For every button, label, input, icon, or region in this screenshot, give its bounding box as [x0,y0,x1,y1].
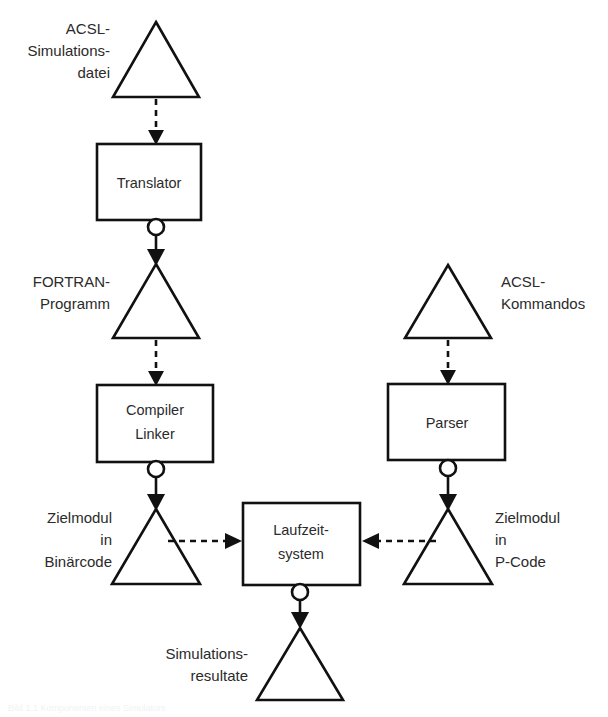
label-fortran-program: FORTRAN- Programm [33,273,110,312]
label-line: ACSL- [501,273,545,290]
label-simulation-results: Simulations- resultate [165,645,248,684]
cut-off-caption: Bild 1.1 Komponenten eines Simulators [8,703,298,715]
label-line: datei [77,64,110,81]
process-compiler-linker: Compiler Linker [97,385,213,462]
label-line: FORTRAN- [33,273,110,290]
label-line: Kommandos [501,295,585,312]
data-store-acsl-commands [405,265,491,338]
arrow-head-icon [439,494,457,511]
label-line: Simulations- [165,645,248,662]
data-store-fortran-program [113,264,199,338]
connector-circle-icon [148,219,164,235]
data-store-target-module-pcode [404,509,492,584]
triangle-shape [112,509,200,584]
data-store-acsl-simulation-file [113,22,199,97]
label-line: P-Code [495,553,546,570]
data-store-target-module-binary [112,509,200,584]
process-runtime-system-label-line1: Laufzeit- [273,522,329,538]
process-runtime-system: Laufzeit- system [243,503,360,585]
label-acsl-commands: ACSL- Kommandos [501,273,585,312]
label-line: Binärcode [44,553,112,570]
process-translator: Translator [97,144,201,220]
triangle-shape [405,265,491,338]
flow-commands-to-parser [440,340,456,385]
label-line: in [495,531,507,548]
flow-fortran-to-compiler [148,340,164,386]
acsl-toolchain-diagram: Translator Compiler Linker Parser Laufze… [0,0,608,717]
diagram-root: Translator Compiler Linker Parser Laufze… [0,0,608,717]
arrow-head-icon [147,494,165,511]
arrow-head-icon [147,249,165,266]
arrow-head-icon [291,612,309,629]
flow-compiler-to-binary [147,461,165,511]
label-line: in [100,531,112,548]
label-target-module-binary: Zielmodul in Binärcode [44,509,112,570]
label-line: Programm [40,295,110,312]
arrow-head-icon [225,533,242,549]
flow-parser-to-pcode [439,460,457,511]
process-compiler-linker-label-line1: Compiler [126,402,184,418]
triangle-shape [113,264,199,338]
connector-circle-icon [440,460,456,476]
label-line: Zielmodul [47,509,112,526]
triangle-shape [404,509,492,584]
flow-runtime-to-results [291,584,309,629]
flow-file-to-translator [148,99,164,145]
connector-circle-icon [148,461,164,477]
label-line: ACSL- [66,20,110,37]
label-line: Zielmodul [495,509,560,526]
process-runtime-system-label-line2: system [278,546,324,562]
arrow-head-icon [362,533,379,549]
label-acsl-simulation-file: ACSL- Simulations- datei [27,20,110,81]
triangle-shape [257,628,343,700]
connector-circle-icon [292,584,308,600]
process-translator-label: Translator [117,175,182,191]
process-box [243,503,360,585]
label-line: resultate [190,667,248,684]
data-store-simulation-results [257,628,343,700]
label-target-module-pcode: Zielmodul in P-Code [495,509,560,570]
label-line: Simulations- [27,42,110,59]
process-parser-label: Parser [426,415,469,431]
process-compiler-linker-label-line2: Linker [135,426,175,442]
process-box [97,385,213,462]
triangle-shape [113,22,199,97]
process-parser: Parser [388,384,505,460]
flow-translator-to-fortran [147,219,165,266]
